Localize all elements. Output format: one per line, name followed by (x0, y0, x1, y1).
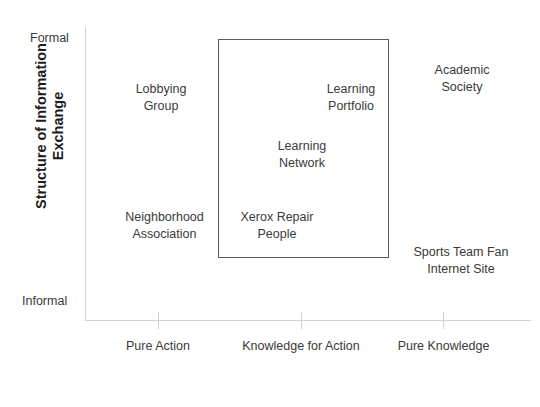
y-axis-title-line-1: Structure of Information (33, 43, 50, 209)
x-axis-label-pure-knowledge: Pure Knowledge (396, 338, 491, 355)
item-neighborhood-association: Neighborhood Association (112, 209, 217, 244)
item-learning-portfolio: Learning Portfolio (305, 81, 397, 116)
x-axis-tick-1 (158, 312, 159, 329)
y-axis-title-line-2: Exchange (50, 92, 67, 161)
x-axis-tick-2 (301, 312, 302, 329)
item-sports-team-fan-internet-site: Sports Team Fan Internet Site (400, 244, 522, 279)
item-xerox-repair-people: Xerox Repair People (225, 209, 329, 244)
x-axis-label-pure-action: Pure Action (118, 338, 198, 355)
x-axis-line (85, 320, 531, 321)
y-axis-line (85, 27, 86, 321)
item-lobbying-group: Lobbying Group (117, 81, 205, 116)
item-learning-network: Learning Network (257, 138, 347, 173)
y-axis-label-informal: Informal (22, 294, 67, 308)
diagram-canvas: Structure of Information Exchange Formal… (0, 0, 540, 407)
item-academic-society: Academic Society (406, 62, 518, 97)
x-axis-tick-3 (443, 312, 444, 329)
y-axis-label-formal: Formal (30, 31, 69, 45)
x-axis-label-knowledge-for-action: Knowledge for Action (231, 338, 371, 355)
y-axis-title: Structure of Information Exchange (28, 13, 72, 239)
